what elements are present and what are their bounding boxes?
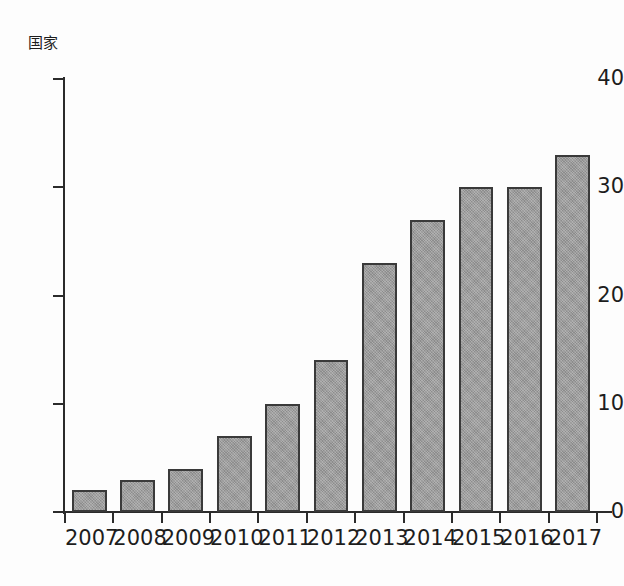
x-axis-tick-label: 2010 bbox=[210, 528, 258, 549]
bar bbox=[72, 490, 107, 512]
bar bbox=[507, 187, 542, 512]
x-axis-tick bbox=[209, 512, 211, 523]
x-axis-tick bbox=[161, 512, 163, 523]
x-axis-tick bbox=[257, 512, 259, 523]
y-axis-tick bbox=[53, 403, 63, 405]
bar bbox=[459, 187, 494, 512]
x-axis-tick-label: 2012 bbox=[307, 528, 355, 549]
x-axis-tick-label: 2013 bbox=[355, 528, 403, 549]
x-axis-tick bbox=[499, 512, 501, 523]
x-axis-tick-label: 2014 bbox=[404, 528, 452, 549]
x-axis-tick bbox=[451, 512, 453, 523]
bar bbox=[265, 404, 300, 512]
bar bbox=[217, 436, 252, 512]
x-axis-tick-label: 2009 bbox=[162, 528, 210, 549]
x-axis-tick bbox=[354, 512, 356, 523]
bar bbox=[168, 469, 203, 512]
y-axis-tick-label: 40 bbox=[578, 68, 624, 89]
bar bbox=[410, 220, 445, 512]
x-axis-tick bbox=[548, 512, 550, 523]
x-axis-tick-label: 2007 bbox=[65, 528, 113, 549]
y-axis-tick bbox=[53, 295, 63, 297]
x-axis-tick-label: 2017 bbox=[549, 528, 597, 549]
bar bbox=[120, 480, 155, 512]
bar bbox=[362, 263, 397, 512]
y-axis-title: 国家 bbox=[28, 36, 58, 51]
y-axis-tick bbox=[53, 511, 63, 513]
bar bbox=[555, 155, 590, 512]
x-axis-tick-label: 2016 bbox=[500, 528, 548, 549]
x-axis-tick-label: 2015 bbox=[452, 528, 500, 549]
y-axis-tick bbox=[53, 78, 63, 80]
x-axis-tick bbox=[112, 512, 114, 523]
bar bbox=[314, 360, 349, 512]
y-axis-tick bbox=[53, 186, 63, 188]
bar-chart: 国家 010203040 200720082009201020112012201… bbox=[0, 0, 624, 586]
y-axis-line bbox=[63, 77, 65, 514]
x-axis-tick bbox=[306, 512, 308, 523]
x-axis-tick bbox=[403, 512, 405, 523]
x-axis-tick bbox=[596, 512, 598, 523]
x-axis-tick-label: 2011 bbox=[258, 528, 306, 549]
x-axis-tick bbox=[64, 512, 66, 523]
x-axis-tick-label: 2008 bbox=[113, 528, 161, 549]
